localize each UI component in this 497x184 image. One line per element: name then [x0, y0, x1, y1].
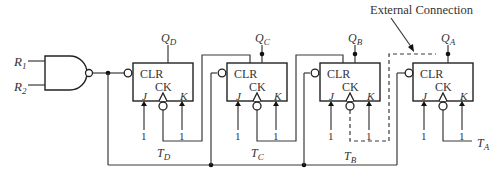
- clock-bubble-icon: [159, 102, 167, 110]
- clock-bubble-icon: [346, 102, 354, 110]
- j-value: 1: [421, 130, 427, 142]
- q-label: QD: [161, 31, 177, 47]
- arrow-icon: [408, 44, 414, 52]
- annotation-pointer: [391, 18, 412, 48]
- k-label: K: [179, 90, 188, 102]
- j-value: 1: [235, 130, 241, 142]
- external-connection-label: External Connection: [370, 3, 474, 17]
- clr-label: CLR: [234, 67, 257, 81]
- t-label: TC: [251, 146, 265, 162]
- t-label: TB: [344, 149, 357, 165]
- clock-bubble-icon: [439, 102, 447, 110]
- flipflop-a: CLR CK J K 1 1 QA TA: [405, 31, 489, 152]
- t-label: TA: [477, 136, 490, 152]
- q-label: QC: [255, 31, 271, 47]
- clr-bubble-icon: [311, 69, 319, 77]
- k-label: K: [459, 90, 468, 102]
- counter-circuit-diagram: R1 R2 CLR CK J K 1 1 QD TD CL: [0, 0, 497, 184]
- ck-label: CK: [249, 80, 266, 94]
- ck-label: CK: [155, 80, 172, 94]
- k-label: K: [366, 90, 375, 102]
- j-value: 1: [141, 130, 147, 142]
- clr-bubble-icon: [124, 69, 132, 77]
- input-r2-label: R2: [13, 79, 27, 96]
- t-label: TD: [157, 146, 171, 162]
- nand-gate: [45, 56, 87, 90]
- clock-bubble-icon: [253, 102, 261, 110]
- clr-label: CLR: [327, 67, 350, 81]
- k-value: 1: [459, 130, 465, 142]
- ck-label: CK: [342, 80, 359, 94]
- j-value: 1: [328, 130, 334, 142]
- junction-dot-icon: [446, 52, 451, 57]
- clr-label: CLR: [420, 67, 443, 81]
- junction-dot-icon: [260, 52, 265, 57]
- junction-dot-icon: [353, 52, 358, 57]
- q-label: QB: [348, 31, 363, 47]
- input-r1-label: R1: [13, 54, 26, 71]
- clr-label: CLR: [140, 67, 163, 81]
- clr-bubble-icon: [405, 69, 413, 77]
- k-value: 1: [179, 130, 185, 142]
- ck-label: CK: [435, 80, 452, 94]
- clock-wire: [443, 110, 472, 141]
- k-value: 1: [273, 130, 279, 142]
- nand-output-bubble-icon: [86, 70, 93, 77]
- q-label: QA: [441, 31, 456, 47]
- k-value: 1: [366, 130, 372, 142]
- k-label: K: [273, 90, 282, 102]
- clr-bubble-icon: [218, 69, 226, 77]
